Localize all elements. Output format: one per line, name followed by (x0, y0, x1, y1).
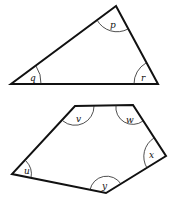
angle-arc-q (36, 66, 41, 84)
angle-label-r: r (141, 73, 146, 83)
triangle: p q r (11, 6, 158, 84)
angle-label-q: q (30, 73, 36, 83)
angle-label-v: v (76, 114, 81, 124)
angle-label-p: p (110, 20, 116, 30)
angle-label-u: u (24, 166, 30, 176)
angle-label-y: y (101, 181, 108, 191)
pentagon: v w x y u (12, 105, 166, 193)
angle-label-w: w (126, 115, 134, 125)
angle-diagram: p q r v w x y u (0, 0, 177, 201)
angle-label-x: x (149, 150, 154, 160)
diagram-svg: p q r v w x y u (0, 0, 177, 201)
pentagon-outline (12, 105, 166, 193)
